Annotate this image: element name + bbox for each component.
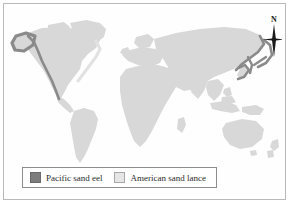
land-tasmania: [250, 150, 257, 156]
compass-rose: N: [263, 15, 282, 57]
map-legend: Pacific sand eel American sand lance: [22, 167, 217, 188]
legend-item-american-sand-lance: American sand lance: [114, 172, 205, 183]
legend-item-pacific-sand-eel: Pacific sand eel: [30, 172, 102, 183]
world-map-plate: N Pacific sand eel American sand lance: [8, 7, 282, 196]
legend-swatch-icon: [114, 172, 125, 183]
legend-label-american-sand-lance: American sand lance: [130, 173, 205, 183]
legend-swatch-icon: [30, 172, 41, 183]
land-new-zealand-south: [267, 150, 274, 158]
legend-label-pacific-sand-eel: Pacific sand eel: [46, 173, 102, 183]
distribution-map-figure: N Pacific sand eel American sand lance: [0, 0, 289, 203]
north-arrow-icon: [263, 24, 282, 57]
compass-north-label: N: [263, 15, 282, 24]
